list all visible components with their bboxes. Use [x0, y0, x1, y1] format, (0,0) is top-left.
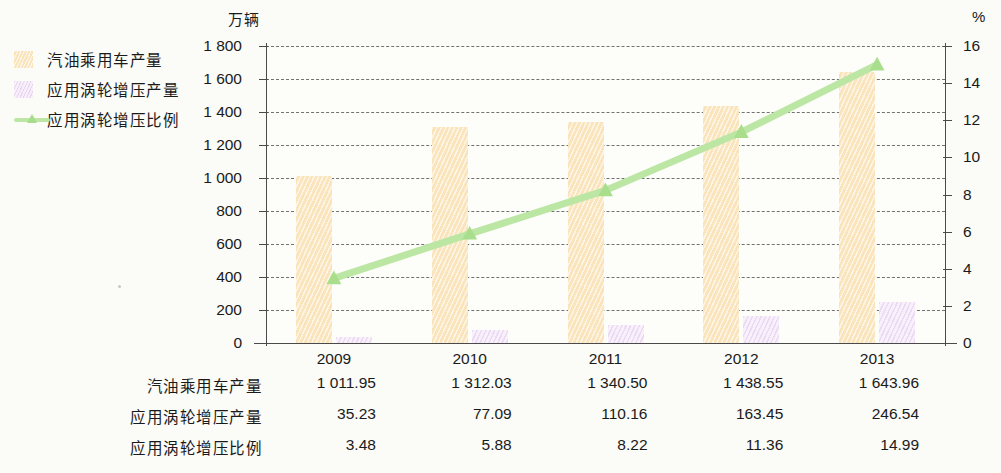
y-axis-right-label: 6: [963, 223, 1001, 241]
row-label: 应用涡轮增压产量: [0, 405, 262, 427]
axis-tick: [259, 310, 268, 311]
x-axis-label: 2011: [546, 350, 666, 368]
y-axis-right-label: 8: [963, 186, 1001, 204]
table-cell: 1 643.96: [789, 374, 919, 392]
axis-tick: [943, 83, 952, 84]
axis-tick: [259, 343, 268, 344]
table-cell: 1 340.50: [518, 374, 648, 392]
table-cell: 3.48: [246, 436, 376, 454]
y-axis-left: [266, 43, 267, 346]
axis-tick: [259, 277, 268, 278]
y-axis-right-label: 16: [963, 37, 1001, 55]
x-axis-label: 2009: [274, 350, 394, 368]
axis-tick: [943, 46, 952, 47]
plot-area: 1 8001 6001 4001 2001 0008006004002000 1…: [266, 46, 945, 343]
table-cell: 1 438.55: [653, 374, 783, 392]
y-axis-right-label: 10: [963, 148, 1001, 166]
square-swatch-icon: [14, 81, 33, 98]
axis-tick: [259, 244, 268, 245]
data-table: 汽油乘用车产量 1 011.951 312.031 340.501 438.55…: [0, 374, 1001, 467]
axis-tick: [943, 306, 952, 307]
y-axis-left-label: 600: [122, 235, 242, 253]
y-axis-left-label: 800: [122, 202, 242, 220]
x-axis-label: 2012: [681, 350, 801, 368]
table-cell: 5.88: [382, 436, 512, 454]
table-cell: 1 011.95: [246, 374, 376, 392]
y-axis-left-label: 1 400: [122, 103, 242, 121]
y-axis-left-label: 200: [122, 301, 242, 319]
y-axis-left-label: 1 800: [122, 37, 242, 55]
table-row: 应用涡轮增压比例 3.485.888.2211.3614.99: [0, 436, 1001, 467]
axis-tick: [943, 232, 952, 233]
line-series-layer: [266, 46, 945, 343]
table-cell: 14.99: [789, 436, 919, 454]
x-axis: [254, 343, 957, 344]
y-axis-right-label: 14: [963, 74, 1001, 92]
table-cell: 8.22: [518, 436, 648, 454]
y-axis-right-label: 12: [963, 111, 1001, 129]
row-label: 汽油乘用车产量: [0, 374, 262, 396]
y-axis-left-label: 1 600: [122, 70, 242, 88]
y-axis-right-label: 4: [963, 260, 1001, 278]
x-axis-label: 2010: [410, 350, 530, 368]
axis-tick: [259, 46, 268, 47]
axis-tick: [259, 112, 268, 113]
square-swatch-icon: [14, 51, 33, 68]
x-axis-label: 2013: [817, 350, 937, 368]
table-cell: 163.45: [653, 405, 783, 423]
table-cell: 246.54: [789, 405, 919, 423]
table-cell: 11.36: [653, 436, 783, 454]
axis-tick: [259, 145, 268, 146]
y-axis-right-label: 2: [963, 297, 1001, 315]
axis-tick: [943, 120, 952, 121]
axis-tick: [943, 195, 952, 196]
y-axis-left-label: 400: [122, 268, 242, 286]
table-row: 汽油乘用车产量 1 011.951 312.031 340.501 438.55…: [0, 374, 1001, 405]
line-marker-icon: [14, 111, 50, 128]
axis-tick: [259, 178, 268, 179]
left-axis-unit: 万辆: [228, 8, 259, 29]
axis-tick: [943, 343, 952, 344]
y-axis-left-label: 0: [122, 334, 242, 352]
table-cell: 110.16: [518, 405, 648, 423]
axis-tick: [943, 157, 952, 158]
page-speck: [118, 285, 121, 288]
y-axis-left-label: 1 200: [122, 136, 242, 154]
y-axis-left-label: 1 000: [122, 169, 242, 187]
y-axis-right-label: 0: [963, 334, 1001, 352]
axis-tick: [943, 269, 952, 270]
table-cell: 1 312.03: [382, 374, 512, 392]
table-cell: 77.09: [382, 405, 512, 423]
row-label: 应用涡轮增压比例: [0, 436, 262, 458]
line-turbo-ratio: [334, 65, 877, 279]
right-axis-unit: %: [972, 8, 985, 25]
axis-tick: [259, 79, 268, 80]
chart-page: 汽油乘用车产量 应用涡轮增压产量 应用涡轮增压比例 万辆 % 1 8001 60…: [0, 0, 1001, 473]
table-row: 应用涡轮增压产量 35.2377.09110.16163.45246.54: [0, 405, 1001, 436]
table-cell: 35.23: [246, 405, 376, 423]
axis-tick: [259, 211, 268, 212]
